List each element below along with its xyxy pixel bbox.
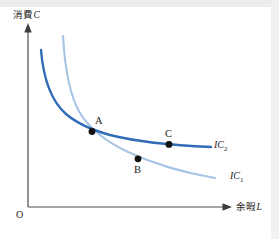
curve-label-ic2-sub: 2 <box>224 145 227 152</box>
point-label-a: A <box>95 116 103 127</box>
x-axis-label-text: 余暇 <box>236 202 256 212</box>
curve-label-ic1-sub: 1 <box>240 176 243 183</box>
x-axis-label: 余暇L <box>236 203 262 213</box>
y-axis-label-variable: C <box>33 10 40 20</box>
y-axis-arrow-icon <box>24 23 31 33</box>
y-axis-label-text: 消費 <box>13 10 33 20</box>
figure-canvas: 消費C 余暇L O A B C IC2 IC1 <box>0 0 279 239</box>
curve-label-ic2: IC2 <box>214 140 227 153</box>
curve-label-ic1: IC1 <box>230 171 243 184</box>
curve-label-ic1-main: IC <box>230 170 240 181</box>
point-marker-c[interactable] <box>166 141 173 148</box>
y-axis-label: 消費C <box>13 11 40 21</box>
origin-label: O <box>16 210 23 220</box>
point-marker-a[interactable] <box>89 128 96 135</box>
point-marker-b[interactable] <box>135 155 142 162</box>
point-label-c: C <box>165 129 172 140</box>
x-axis-arrow-icon <box>223 203 233 210</box>
x-axis-label-variable: L <box>256 202 262 212</box>
point-label-b: B <box>134 165 141 176</box>
curve-label-ic2-main: IC <box>214 139 224 150</box>
